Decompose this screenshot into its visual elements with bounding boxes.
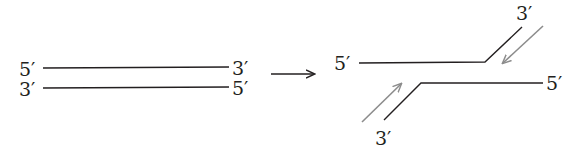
- label-lower-right: 5′: [546, 72, 562, 94]
- label-bottom-left: 3′: [19, 78, 35, 100]
- label-lower-end: 3′: [375, 127, 391, 149]
- bottom-strand-line: [43, 87, 229, 88]
- separated-strands: 5′ 3′ 5′ 3′: [334, 2, 562, 149]
- label-top-right: 3′: [232, 57, 248, 79]
- dna-replication-diagram: 5′ 3′ 3′ 5′ 5′ 3′ 5′ 3′: [0, 0, 578, 153]
- diagram-canvas: 5′ 3′ 3′ 5′ 5′ 3′ 5′ 3′: [0, 0, 578, 153]
- top-strand-line: [43, 67, 229, 68]
- upper-strand-line: [359, 27, 522, 63]
- synthesis-arrow-up-right-icon: [362, 84, 401, 122]
- label-top-left: 5′: [19, 58, 35, 80]
- lower-strand-line: [384, 83, 543, 120]
- double-strand-dna: 5′ 3′ 3′ 5′: [19, 57, 248, 100]
- label-upper-left: 5′: [334, 52, 350, 74]
- label-upper-end: 3′: [516, 2, 532, 24]
- label-bottom-right: 5′: [232, 77, 248, 99]
- synthesis-arrow-down-left-icon: [503, 26, 543, 63]
